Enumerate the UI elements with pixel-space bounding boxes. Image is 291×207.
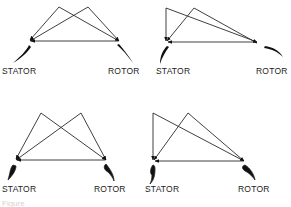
relative-velocity-vector xyxy=(153,113,244,161)
stator-blade-icon xyxy=(8,165,16,180)
stator-blade-icon xyxy=(160,46,169,64)
absolute-velocity-vector xyxy=(154,113,188,160)
relative-velocity-vector xyxy=(59,7,119,41)
velocity-triangle-diagram: STATOR ROTOR STATOR ROTOR STATOR ROTOR S… xyxy=(0,0,291,207)
rotor-blade-icon xyxy=(264,46,283,57)
absolute-velocity-vector xyxy=(16,113,81,160)
relative-velocity-vector xyxy=(41,113,106,160)
rotor-blade-icon xyxy=(117,44,133,63)
absolute-velocity-vector xyxy=(16,113,41,159)
rotor-label: ROTOR xyxy=(108,66,140,76)
relative-velocity-vector xyxy=(88,7,119,41)
rotor-blade-icon xyxy=(243,165,255,180)
stator-blade-icon xyxy=(150,165,155,184)
absolute-velocity-vector xyxy=(30,7,59,40)
panel-top-right: STATOR ROTOR xyxy=(156,8,288,76)
rotor-label: ROTOR xyxy=(256,66,288,76)
stator-label: STATOR xyxy=(145,184,179,194)
panel-bottom-right: STATOR ROTOR xyxy=(145,113,270,194)
rotor-label: ROTOR xyxy=(238,184,270,194)
panel-bottom-left: STATOR ROTOR xyxy=(2,113,126,194)
stator-blade-icon xyxy=(13,45,31,63)
rotor-label: ROTOR xyxy=(94,184,126,194)
relative-velocity-vector xyxy=(194,8,257,43)
absolute-velocity-vector xyxy=(30,7,88,41)
stator-label: STATOR xyxy=(156,66,190,76)
relative-velocity-vector xyxy=(188,113,244,161)
relative-velocity-vector xyxy=(81,113,106,160)
stator-label: STATOR xyxy=(2,184,36,194)
stator-label: STATOR xyxy=(2,66,36,76)
figure-caption: Figure xyxy=(2,199,25,207)
panel-top-left: STATOR ROTOR xyxy=(2,7,140,76)
rotor-blade-icon xyxy=(104,164,114,181)
